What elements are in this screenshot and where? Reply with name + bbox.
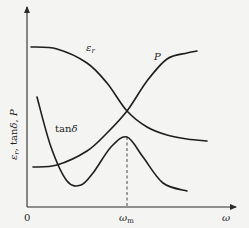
tick-label-omega-m: ωm (119, 212, 134, 225)
x-axis-label: ω (222, 212, 230, 223)
label-epsilon-r: εr (86, 42, 95, 55)
curve-tan-delta (37, 97, 187, 191)
dielectric-frequency-diagram: εr P tanδ 0 ωm ω εr, tanδ, P (0, 0, 249, 228)
tick-label-origin: 0 (24, 212, 30, 223)
curve-power-p (33, 51, 197, 167)
y-axis-label: εr, tanδ, P (8, 109, 21, 160)
label-tan-delta: tanδ (55, 123, 77, 134)
label-p: P (153, 51, 161, 62)
